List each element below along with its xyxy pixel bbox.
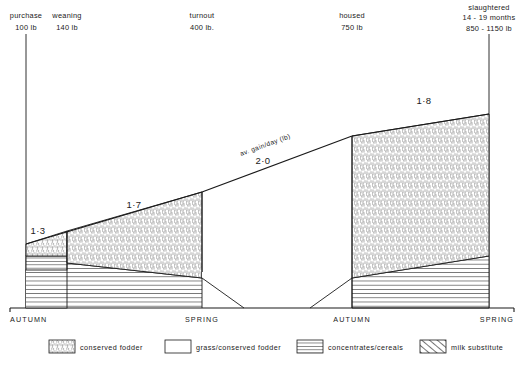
legend-label-concentrates-cereals: concentrates/cereals [328, 343, 403, 352]
area-conserved-fodder-right [352, 114, 489, 278]
stage-weight-purchase: 100 lb [15, 23, 37, 32]
ratio-label-2: 1·7 [127, 199, 142, 210]
stage-weight-slaughtered: 850 - 1150 lb [466, 24, 512, 33]
stage-weight-turnout: 400 lb. [190, 23, 214, 32]
ratio-label-4: 1·8 [417, 95, 432, 106]
ratio-label-1: 1·3 [31, 225, 46, 236]
stage-title-weaning: weaning [51, 11, 81, 20]
season-label-spring-2: SPRING [480, 315, 514, 324]
stage-title-turnout: turnout [190, 11, 215, 20]
legend-label-conserved-fodder: conserved fodder [80, 343, 143, 352]
stage-weight-weaning: 140 lb [56, 23, 78, 32]
stage-weight-housed: 750 lb [341, 23, 363, 32]
legend-swatch-conserved-fodder [49, 340, 75, 353]
area-concentrates-preweaning [26, 256, 67, 270]
legend-label-milk-substitute: milk substitute [451, 343, 503, 352]
legend-label-grass-conserved-fodder: grass/conserved fodder [196, 343, 281, 352]
ratio-label-3: 2·0 [256, 155, 271, 166]
season-label-autumn-1: AUTUMN [10, 315, 47, 324]
stage-title-slaughtered: slaughtered [468, 3, 509, 12]
legend-swatch-milk-substitute [420, 340, 446, 353]
figure-canvas: purchase 100 lb weaning 140 lb turnout 4… [0, 0, 523, 373]
stage-label-slaughtered: slaughtered 14 - 19 months 850 - 1150 lb [463, 3, 516, 33]
right-period-block [352, 114, 489, 308]
legend-swatch-concentrates-cereals [297, 340, 323, 353]
season-label-spring-1: SPRING [185, 315, 219, 324]
stage-subtitle-slaughtered: 14 - 19 months [463, 13, 516, 22]
stage-title-purchase: purchase [10, 11, 42, 20]
season-label-autumn-2: AUTUMN [333, 315, 370, 324]
stage-title-housed: housed [339, 11, 365, 20]
legend-swatch-grass-conserved-fodder [165, 340, 191, 353]
